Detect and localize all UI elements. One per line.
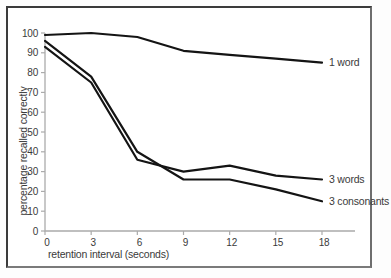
y-tick-label-8: 80 [27,67,38,78]
x-tick-label-2: 6 [137,237,143,248]
x-axis-title: retention interval (seconds) [48,248,169,260]
series-label-3-words: 3 words [329,173,364,185]
series-label-3-consonants: 3 consonants [329,195,389,207]
series-layer [45,33,322,201]
series-line-3-consonants [45,41,322,201]
retention-line-chart: 03691215180102030405060708090100 1 word3… [0,0,391,278]
y-tick-label-0: 0 [33,226,39,237]
series-label-1-word: 1 word [329,56,360,68]
x-tick-label-3: 9 [183,237,189,248]
ticks-layer: 03691215180102030405060708090100 [22,28,330,249]
axis-spine [45,33,355,231]
y-tick-label-9: 90 [27,47,38,58]
y-tick-label-10: 100 [22,28,39,39]
series-line-1-word [45,33,322,63]
x-tick-label-6: 18 [319,237,330,248]
y-axis-title: percentage recalled correctly [17,86,29,216]
x-tick-label-0: 0 [44,237,50,248]
series-line-3-words [45,47,322,180]
axes-layer [45,33,355,231]
x-tick-label-5: 15 [272,237,283,248]
figure: 03691215180102030405060708090100 1 word3… [0,0,391,278]
series-labels-layer: 1 word3 words3 consonants [329,56,389,207]
x-tick-label-4: 12 [226,237,237,248]
x-tick-label-1: 3 [90,237,96,248]
